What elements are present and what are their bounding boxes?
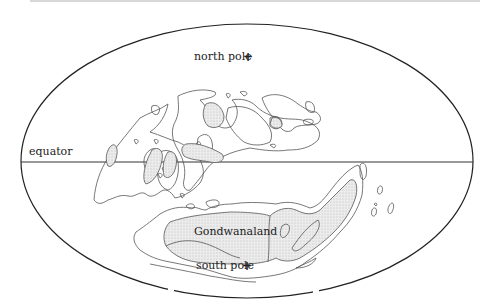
gondwanaland-landmass: [134, 163, 394, 282]
globe-outline-gaps: [168, 287, 319, 294]
northern-land-fill: [106, 103, 282, 184]
south-pole-marker: +: [242, 259, 252, 273]
north-pole-marker: +: [243, 50, 253, 64]
world-map: north pole + equator Gondwanaland south …: [0, 0, 480, 306]
gondwanaland-label: Gondwanaland: [194, 225, 277, 238]
equator-label: equator: [29, 145, 73, 158]
